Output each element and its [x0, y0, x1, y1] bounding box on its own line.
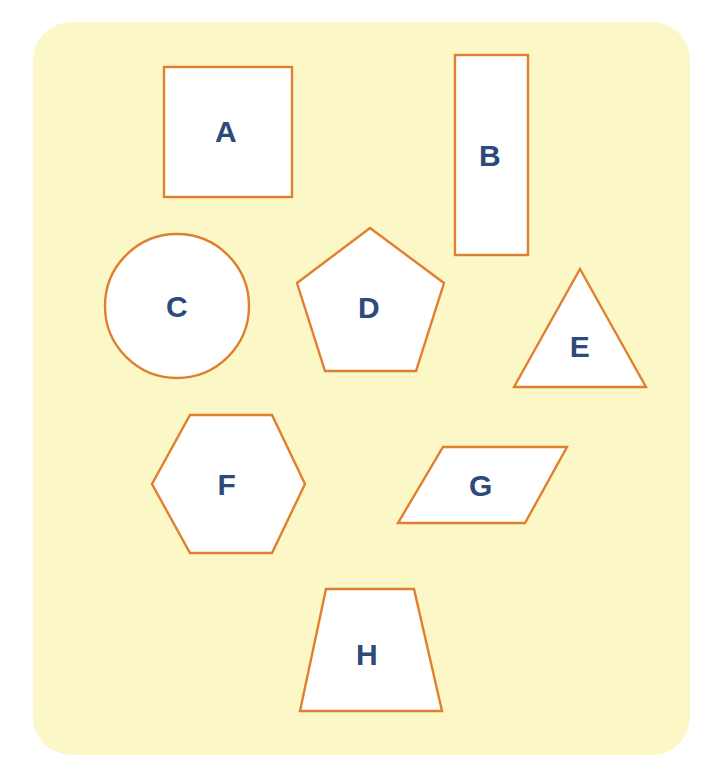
shape-label-b: B — [479, 141, 501, 171]
shape-label-a: A — [215, 117, 237, 147]
shape-e-triangle — [514, 269, 646, 387]
shapes-worksheet: ABCDEFGH — [0, 0, 709, 780]
shape-label-c: C — [166, 292, 188, 322]
shape-label-g: G — [469, 471, 493, 501]
shape-layer — [0, 0, 709, 780]
shape-label-h: H — [356, 640, 378, 670]
shape-label-f: F — [218, 470, 237, 500]
shape-label-d: D — [358, 293, 380, 323]
shape-label-e: E — [570, 332, 591, 362]
